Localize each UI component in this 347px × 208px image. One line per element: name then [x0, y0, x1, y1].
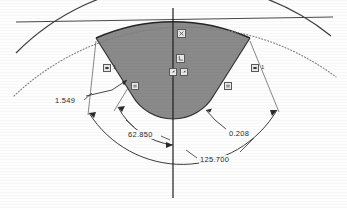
angle-outer-ext-right — [250, 41, 279, 112]
leader-line-125700 — [186, 150, 197, 158]
angle-inner-arrowhead-end — [166, 142, 173, 148]
perpendicular-constraint-icon[interactable] — [176, 54, 185, 63]
leader-arrowhead-0208 — [206, 109, 212, 113]
tangent-constraint-icon[interactable] — [103, 64, 111, 72]
leader-line-62850 — [126, 120, 134, 127]
tangent-constraint-icon[interactable] — [251, 64, 259, 72]
equal-constraint-icon[interactable] — [131, 82, 139, 90]
tangent-constraint-tag: 1 — [261, 64, 264, 70]
coincident-constraint-icon[interactable] — [169, 68, 177, 76]
leader-line-1549 — [86, 80, 127, 96]
angle-outer-ext-left — [88, 41, 96, 115]
fix-constraint-icon[interactable] — [177, 29, 186, 38]
equal-constraint-icon[interactable] — [224, 82, 232, 90]
leader-line-0208 — [206, 110, 226, 129]
dimension-label-linear-left[interactable]: 1.549 — [54, 96, 76, 105]
tangent-constraint-tag: 1 — [113, 64, 116, 70]
dimension-label-angle-inner[interactable]: 62.850 — [127, 130, 154, 139]
drawing-svg — [0, 0, 347, 208]
leader-tick-1549 — [84, 93, 92, 100]
cad-sketch-canvas[interactable]: 1.549 62.850 0.208 125.700 1 1 — [0, 0, 347, 208]
leader-line-62850-right — [161, 136, 170, 140]
dimension-label-angle-outer[interactable]: 125.700 — [199, 155, 230, 164]
coincident-constraint-icon[interactable] — [180, 68, 188, 76]
dimension-label-radius-right[interactable]: 0.208 — [228, 129, 250, 138]
leader-line-125700-right — [240, 138, 254, 152]
